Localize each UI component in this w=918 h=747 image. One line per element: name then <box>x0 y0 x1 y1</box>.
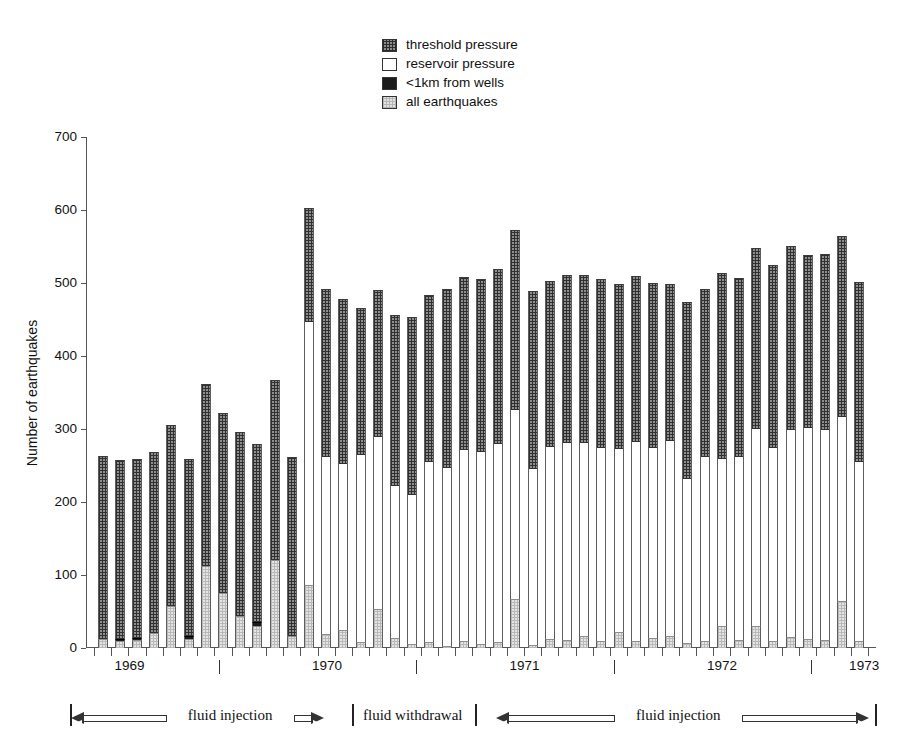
x-tick-mark <box>730 648 731 656</box>
bar-segment-threshold-pressure <box>407 317 417 495</box>
arrow-shaft <box>742 715 857 722</box>
phase-arrow-right <box>294 712 324 725</box>
bar-segment-reservoir-pressure <box>356 455 366 642</box>
plot-area: 0100200300400500600700 <box>86 137 876 648</box>
bar-segment-all-earthquakes <box>579 636 589 648</box>
x-tick-mark <box>868 648 869 656</box>
bar-segment-threshold-pressure <box>803 255 813 429</box>
bar-segment-all-earthquakes <box>562 640 572 648</box>
bar-segment-threshold-pressure <box>596 279 606 448</box>
phase-arrow-left <box>496 712 615 725</box>
x-tick-mark <box>834 648 835 656</box>
bar-segment-reservoir-pressure <box>596 448 606 641</box>
x-tick-mark <box>765 648 766 656</box>
bar-segment-threshold-pressure <box>287 457 297 636</box>
earthquake-bar-chart: threshold pressure reservoir pressure <1… <box>0 0 918 747</box>
bar-segment-threshold-pressure <box>115 460 125 639</box>
bar <box>442 289 452 648</box>
bar <box>252 444 262 648</box>
bar <box>854 282 864 648</box>
bar <box>700 289 710 648</box>
x-tick-mark <box>662 648 663 656</box>
bar <box>717 273 727 648</box>
bar-segment-reservoir-pressure <box>562 443 572 640</box>
x-tick-mark <box>163 648 164 656</box>
bar-segment-threshold-pressure <box>631 276 641 442</box>
x-tick-mark <box>748 648 749 656</box>
bar <box>751 248 761 648</box>
bar-segment-all-earthquakes <box>390 638 400 648</box>
x-tick-mark <box>386 648 387 656</box>
x-tick-mark <box>472 648 473 656</box>
x-tick-mark <box>713 648 714 656</box>
bar-segment-all-earthquakes <box>201 566 211 648</box>
bar-segment-all-earthquakes <box>218 593 228 648</box>
bar <box>132 459 142 648</box>
bar-segment-all-earthquakes <box>459 641 469 648</box>
legend-item-all-earthquakes: all earthquakes <box>382 93 518 111</box>
bar-segment-reservoir-pressure <box>545 447 555 639</box>
bar-segment-all-earthquakes <box>665 636 675 648</box>
bar <box>803 255 813 648</box>
y-tick-label-0: 0 <box>17 641 86 654</box>
bar-segment-all-earthquakes <box>510 599 520 648</box>
bar-segment-reservoir-pressure <box>510 410 520 599</box>
bar-segment-threshold-pressure <box>493 269 503 443</box>
bar-segment-threshold-pressure <box>751 248 761 429</box>
bar-segment-all-earthquakes <box>184 639 194 648</box>
x-axis-year-1971: 1971 <box>509 658 539 673</box>
bar-segment-all-earthquakes <box>373 609 383 648</box>
bar <box>149 452 159 648</box>
bar-segment-reservoir-pressure <box>390 486 400 638</box>
legend-swatch-near-wells <box>382 77 397 90</box>
x-tick-mark <box>111 648 112 656</box>
bar-segment-threshold-pressure <box>528 291 538 469</box>
legend-item-threshold-pressure: threshold pressure <box>382 36 518 54</box>
bar <box>235 432 245 648</box>
bar-segment-all-earthquakes <box>545 639 555 648</box>
bar-segment-reservoir-pressure <box>579 443 589 636</box>
bar-segment-threshold-pressure <box>132 459 142 638</box>
bar-segment-all-earthquakes <box>132 640 142 648</box>
bar-segment-reservoir-pressure <box>682 479 692 643</box>
bar <box>579 275 589 648</box>
bar <box>596 279 606 648</box>
x-tick-mark <box>300 648 301 656</box>
phase-arrow-right <box>742 712 869 725</box>
bar-segment-all-earthquakes <box>338 630 348 648</box>
bar <box>201 384 211 648</box>
legend-label-reservoir-pressure: reservoir pressure <box>406 57 515 71</box>
bar-segment-threshold-pressure <box>424 295 434 462</box>
x-tick-mark <box>94 648 95 656</box>
x-tick-mark <box>438 648 439 656</box>
bar-segment-threshold-pressure <box>149 452 159 633</box>
bar <box>287 457 297 648</box>
bar-segment-reservoir-pressure <box>614 449 624 632</box>
bar-segment-threshold-pressure <box>665 284 675 442</box>
x-tick-mark <box>197 648 198 656</box>
bar-segment-threshold-pressure <box>98 456 108 639</box>
x-tick-mark <box>214 648 215 656</box>
arrow-shaft <box>83 715 167 722</box>
bar-segment-reservoir-pressure <box>700 457 710 641</box>
bar-segment-threshold-pressure <box>321 289 331 457</box>
legend-item-reservoir-pressure: reservoir pressure <box>382 55 518 73</box>
phase-boundary-tick <box>475 704 477 726</box>
x-tick-mark <box>232 648 233 656</box>
bar-segment-reservoir-pressure <box>631 442 641 641</box>
x-tick-mark <box>696 648 697 656</box>
bar <box>218 413 228 648</box>
x-tick-mark <box>335 648 336 656</box>
bar-segment-threshold-pressure <box>304 208 314 323</box>
bar-segment-all-earthquakes <box>786 637 796 648</box>
x-tick-mark <box>782 648 783 656</box>
x-tick-mark <box>404 648 405 656</box>
y-tick-label-200: 200 <box>17 495 86 508</box>
x-tick-mark <box>266 648 267 656</box>
y-tick-label-100: 100 <box>17 568 86 581</box>
bar-segment-threshold-pressure <box>442 289 452 469</box>
bar-segment-threshold-pressure <box>648 283 658 448</box>
legend-label-near-wells: <1km from wells <box>406 76 504 90</box>
bar <box>614 284 624 648</box>
x-tick-mark <box>421 648 422 656</box>
